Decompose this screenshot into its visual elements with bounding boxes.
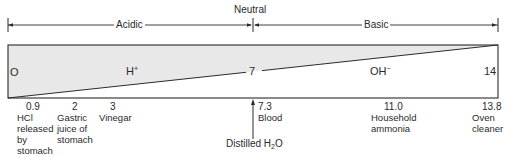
example-household-ammonia: 11.0 Household ammonia	[371, 101, 416, 134]
example-line: stomach	[17, 145, 53, 156]
acidic-label: Acidic	[114, 19, 145, 30]
example-ph: 7.3	[258, 101, 282, 112]
example-line: stomach	[57, 134, 93, 145]
example-line: Vinegar	[99, 112, 132, 123]
example-vinegar: 3 Vinegar	[99, 101, 132, 123]
example-ph: 2	[57, 101, 93, 112]
example-line: HCl	[17, 112, 53, 123]
example-line: Blood	[258, 112, 282, 123]
basic-label: Basic	[362, 19, 390, 30]
distilled-water-text: Distilled H	[226, 138, 271, 149]
neutral-label: Neutral	[232, 4, 268, 15]
example-line: cleaner	[472, 123, 503, 134]
acidic-right-arrowhead	[247, 23, 252, 26]
example-line: Oven	[472, 112, 503, 123]
example-hcl: 0.9 HCl released by stomach	[17, 101, 53, 156]
basic-left-arrowhead	[254, 23, 259, 26]
example-gastric-juice: 2 Gastric juice of stomach	[57, 101, 93, 145]
example-ph: 13.8	[472, 101, 503, 112]
h-ion-label: H+	[126, 65, 138, 77]
distilled-water-text-end: O	[275, 138, 283, 149]
distilled-water-label: Distilled H2O	[226, 138, 283, 150]
example-line: by	[17, 134, 53, 145]
example-line: Gastric	[57, 112, 93, 123]
h-ion-symbol: H	[126, 65, 134, 77]
h-ion-charge: +	[134, 65, 138, 72]
example-line: ammonia	[371, 123, 416, 134]
example-blood: 7.3 Blood	[258, 101, 282, 123]
acidic-left-arrowhead	[8, 23, 13, 26]
oh-ion-label: OH−	[370, 65, 391, 77]
example-line: juice of	[57, 123, 93, 134]
ph-max-label: 14	[484, 65, 496, 77]
ph-min-label: O	[10, 66, 19, 78]
basic-right-arrowhead	[492, 23, 497, 26]
example-oven-cleaner: 13.8 Oven cleaner	[472, 101, 503, 134]
example-line: released	[17, 123, 53, 134]
distilled-water-arrowhead	[251, 99, 255, 105]
ph-neutral-label: 7	[249, 65, 255, 77]
example-line: Household	[371, 112, 416, 123]
example-ph: 3	[99, 101, 132, 112]
oh-ion-symbol: OH	[370, 65, 387, 77]
oh-ion-charge: −	[387, 65, 391, 72]
example-ph: 11.0	[371, 101, 416, 112]
example-ph: 0.9	[17, 101, 53, 112]
